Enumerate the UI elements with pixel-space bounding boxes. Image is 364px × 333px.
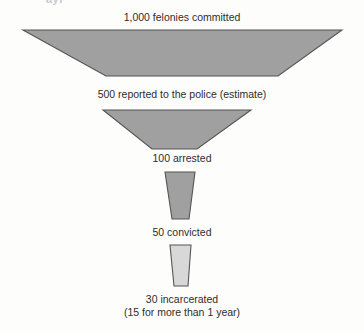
- funnel-segment-3: [165, 172, 195, 219]
- funnel-stage-label-5-line1: 30 incarcerated: [146, 293, 218, 305]
- funnel-stage-label-2: 500 reported to the police (estimate): [0, 88, 364, 101]
- funnel-segment-1: [23, 30, 342, 76]
- funnel-shapes: [0, 0, 364, 333]
- funnel-stage-label-4: 50 convicted: [0, 226, 364, 239]
- funnel-stage-label-3: 100 arrested: [0, 152, 364, 165]
- funnel-stage-label-5: 30 incarcerated (15 for more than 1 year…: [0, 293, 364, 319]
- funnel-segment-4: [170, 245, 191, 286]
- funnel-segment-2: [103, 110, 251, 149]
- criminal-justice-funnel-figure: ayı 1,000 felonies committed 500 reporte…: [0, 0, 364, 333]
- funnel-stage-label-5-line2: (15 for more than 1 year): [0, 306, 364, 319]
- funnel-stage-label-1: 1,000 felonies committed: [0, 11, 364, 24]
